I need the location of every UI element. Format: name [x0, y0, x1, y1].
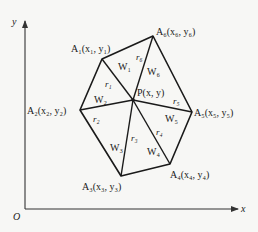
- distance-r3: r₃: [131, 133, 138, 143]
- vertex-a5-label: A₅(x₅, y₅): [194, 107, 233, 119]
- origin-label: O: [13, 211, 20, 222]
- vertex-a6-label: A₆(x₆, y₆): [156, 26, 195, 38]
- weight-w3: W₃: [110, 142, 123, 153]
- distance-r1: r₁: [105, 79, 112, 89]
- diagram-canvas: y x O P(x, y) A₁(x₁, y₁) A₂(x₂, y₂) A₃(x…: [0, 0, 258, 232]
- distance-r6: r₆: [136, 52, 143, 62]
- distance-r5: r₅: [173, 96, 180, 106]
- spoke-r5: [133, 100, 192, 112]
- weight-w1: W₁: [118, 61, 131, 72]
- y-axis-label: y: [11, 16, 17, 27]
- weight-w4: W₄: [147, 146, 160, 157]
- weight-w2: W₂: [94, 94, 107, 105]
- point-p-label: P(x, y): [137, 87, 164, 99]
- point-p-marker: [131, 98, 135, 102]
- diagram-svg: y x O P(x, y) A₁(x₁, y₁) A₂(x₂, y₂) A₃(x…: [0, 0, 258, 232]
- vertex-a2-label: A₂(x₂, y₂): [27, 105, 66, 117]
- weight-w6: W₆: [147, 66, 160, 77]
- vertex-a1-label: A₁(x₁, y₁): [71, 43, 110, 55]
- distance-r4: r₄: [156, 127, 163, 137]
- weight-w5: W₅: [165, 113, 178, 124]
- vertex-a3-label: A₃(x₃, y₃): [82, 181, 121, 193]
- distance-r2: r₂: [93, 114, 100, 124]
- x-axis-label: x: [240, 203, 246, 214]
- vertex-a4-label: A₄(x₄, y₄): [170, 169, 209, 181]
